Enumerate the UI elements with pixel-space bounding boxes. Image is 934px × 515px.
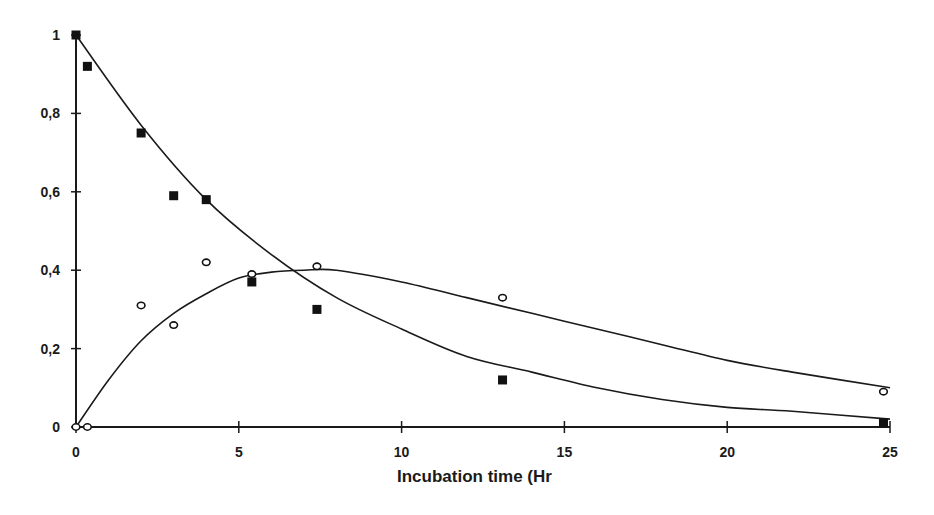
circle-marker [170, 322, 178, 328]
square-marker [83, 62, 92, 71]
circle-marker [84, 424, 92, 430]
circle-marker [137, 302, 145, 308]
circle-marker [499, 294, 507, 300]
x-tick-label: 15 [557, 444, 573, 460]
open-circles-fit-curve [76, 269, 890, 427]
square-marker [137, 129, 146, 138]
x-tick-label: 25 [882, 444, 898, 460]
circle-marker [313, 263, 321, 269]
y-tick-label: 0 [52, 419, 60, 435]
axes [71, 35, 890, 433]
y-tick-label: 1 [52, 27, 60, 43]
circle-marker [880, 389, 888, 395]
x-tick-label: 10 [394, 444, 410, 460]
square-marker [72, 31, 81, 40]
square-marker [312, 305, 321, 314]
y-tick-label: 0,8 [41, 105, 61, 121]
y-tick-label: 0,6 [41, 184, 61, 200]
square-marker [879, 419, 888, 428]
chart: 051015202500,20,40,60,81 Incubation time… [0, 0, 934, 515]
circle-marker [248, 271, 256, 277]
x-tick-label: 5 [235, 444, 243, 460]
y-tick-label: 0,4 [41, 262, 61, 278]
y-tick-label: 0,2 [41, 341, 61, 357]
tick-labels: 051015202500,20,40,60,81 [41, 27, 898, 460]
filled-squares-fit-curve [76, 35, 890, 419]
x-axis-title: Incubation time (Hr [397, 467, 552, 486]
fit-curves [76, 35, 890, 427]
square-marker [498, 375, 507, 384]
square-marker [202, 195, 211, 204]
x-tick-label: 0 [72, 444, 80, 460]
x-tick-label: 20 [719, 444, 735, 460]
data-points [72, 31, 888, 431]
circle-marker [202, 259, 210, 265]
square-marker [169, 191, 178, 200]
square-marker [247, 277, 256, 286]
circle-marker [72, 424, 80, 430]
